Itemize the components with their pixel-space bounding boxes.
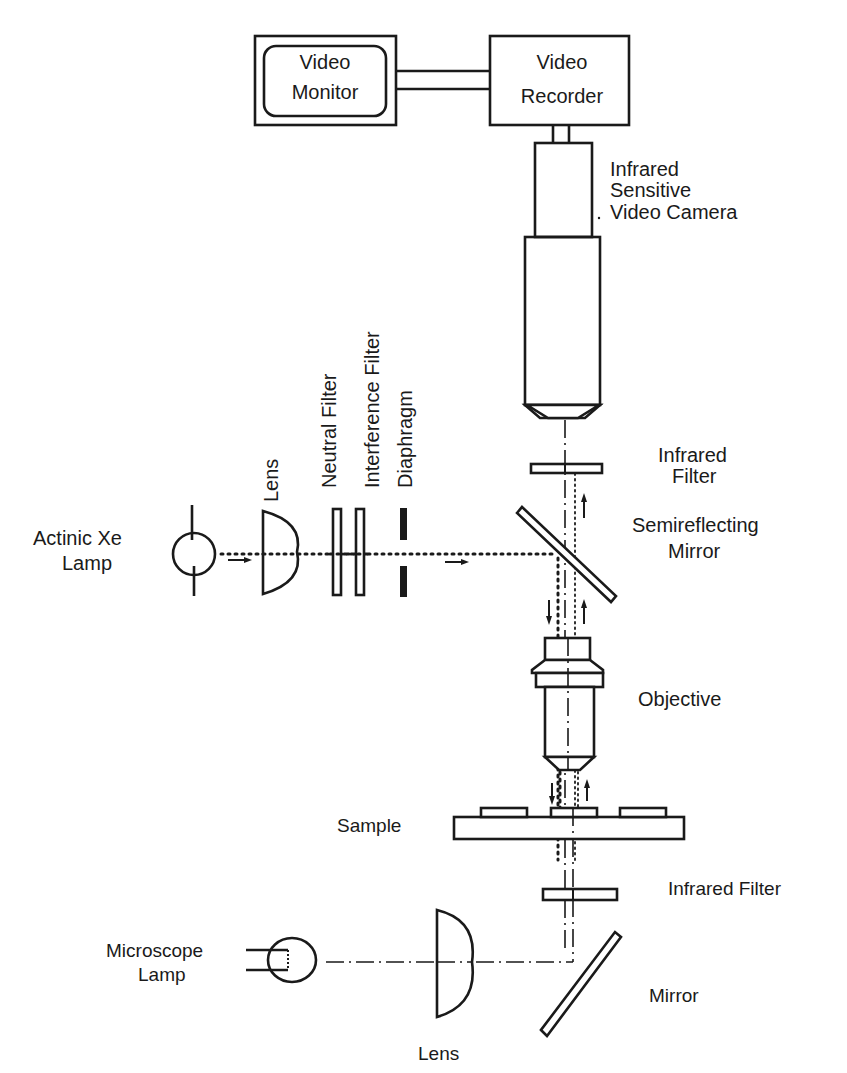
microscope-lamp-bulb [268,938,316,982]
camera-label-2: Sensitive [610,179,691,201]
objective-flange [536,673,603,687]
arrow-down-icon [549,783,555,805]
diaphragm: Diaphragm [394,390,416,597]
video-monitor: Video Monitor [255,36,396,125]
camera-label-1: Infrared [610,158,679,180]
lower-mirror-label: Mirror [649,985,699,1006]
actinic-lens: Lens [260,459,298,594]
lower-ir-filter-plate [543,889,617,900]
video-recorder-box [490,36,629,125]
semireflecting-mirror-label-2: Mirror [668,540,721,562]
diaphragm-label: Diaphragm [394,390,416,488]
arrow-down-icon [546,600,552,625]
video-recorder-label-2: Recorder [521,85,604,107]
arrow-right-icon [445,559,469,565]
actinic-lamp-label-1: Actinic Xe [33,527,122,549]
interference-filter-plate [356,509,364,595]
diaphragm-blade-bottom [400,566,407,597]
video-monitor-label-1: Video [300,51,351,73]
sample-specimen-center [551,808,597,817]
upper-infrared-filter: Infrared Filter [531,444,727,487]
sample-stage: Sample [337,808,684,839]
upper-ir-filter-plate [531,464,602,473]
objective-barrel [545,687,594,757]
upper-ir-filter-label-2: Filter [672,465,717,487]
monitor-recorder-cable [396,71,490,89]
camera-connector [553,125,569,143]
diaphragm-blade-top [400,508,407,540]
diagram-canvas: Video Monitor Video Recorder Infrared Se… [0,0,847,1073]
camera-lower-body [525,237,600,405]
sample-slide [454,817,684,839]
interference-filter-label: Interference Filter [361,331,383,488]
microscope-lamp-label-1: Microscope [106,940,203,961]
microscope-lamp-label-2: Lamp [138,964,186,985]
arrow-right-icon [228,557,252,563]
neutral-filter-plate [333,509,341,595]
lower-lens-shape [437,910,473,1017]
video-recorder: Video Recorder [490,36,629,125]
sample-specimen-left [481,808,527,817]
video-monitor-label-2: Monitor [292,81,359,103]
neutral-filter-label: Neutral Filter [318,373,340,488]
lower-lens: Lens [418,910,473,1064]
lower-lens-label: Lens [418,1043,459,1064]
arrow-up-icon [584,779,590,801]
upper-ir-filter-label-1: Infrared [658,444,727,466]
infrared-video-camera: Infrared Sensitive Video Camera [525,143,738,418]
objective-label: Objective [638,688,721,710]
sample-specimen-right [620,808,666,817]
arrow-up-icon [581,599,587,624]
camera-upper-body [535,143,592,237]
microscope-lamp: Microscope Lamp [106,938,316,985]
video-recorder-label-1: Video [537,51,588,73]
sample-label: Sample [337,815,401,836]
actinic-lens-label: Lens [260,459,282,502]
objective: Objective [532,638,721,770]
semireflecting-mirror-label-1: Semireflecting [632,514,759,536]
actinic-lamp-label-2: Lamp [62,552,112,574]
lower-infrared-filter: Infrared Filter [543,878,782,900]
lower-ir-filter-label: Infrared Filter [668,878,782,899]
camera-label-3: Video Camera [610,201,738,223]
neutral-filter: Neutral Filter [318,373,341,595]
lower-mirror-plate [541,932,621,1036]
arrow-up-icon [581,493,587,518]
actinic-xe-lamp: Actinic Xe Lamp [33,505,215,596]
objective-tip [545,757,594,770]
